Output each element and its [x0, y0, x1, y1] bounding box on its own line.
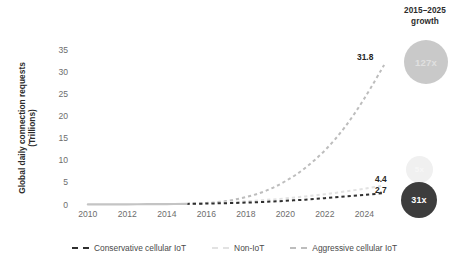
- x-tick-2012: 2012: [110, 209, 144, 219]
- series-line-conservative-cellular-iot: [187, 193, 385, 204]
- growth-badge-conservative-value: 31x: [411, 195, 427, 205]
- y-axis-title-line2: (Trillions): [27, 62, 37, 194]
- x-tick-2016: 2016: [189, 209, 223, 219]
- y-axis-title-line1: Global daily connection requests: [17, 62, 27, 194]
- series-line-historical: [88, 204, 187, 205]
- y-tick-15: 15: [44, 133, 68, 143]
- growth-badge-aggressive: 127x: [404, 40, 448, 84]
- legend-label: Aggressive cellular IoT: [312, 243, 397, 253]
- y-tick-10: 10: [44, 155, 68, 165]
- y-tick-5: 5: [44, 177, 68, 187]
- legend-label: Non-IoT: [234, 243, 264, 253]
- legend-item-conservative-cellular-iot[interactable]: Conservative cellular IoT: [72, 243, 186, 253]
- x-tick-2014: 2014: [150, 209, 184, 219]
- legend-item-aggressive-cellular-iot[interactable]: Aggressive cellular IoT: [290, 243, 397, 253]
- x-tick-2024: 2024: [347, 209, 381, 219]
- x-tick-2022: 2022: [308, 209, 342, 219]
- legend-item-non-iot[interactable]: Non-IoT: [212, 243, 264, 253]
- y-tick-0: 0: [44, 200, 68, 210]
- y-tick-25: 25: [44, 89, 68, 99]
- y-axis-title: Global daily connection requests (Trilli…: [17, 62, 37, 194]
- end-label-non-iot: 4.4: [375, 174, 387, 184]
- y-tick-30: 30: [44, 67, 68, 77]
- legend-dash-icon: [212, 247, 229, 249]
- legend-dash-icon: [72, 247, 89, 249]
- chart-legend: Conservative cellular IoTNon-IoTAggressi…: [0, 243, 469, 253]
- growth-header-line1: 2015–2025: [404, 6, 446, 15]
- y-axis-title-wrap: Global daily connection requests (Trilli…: [14, 48, 40, 208]
- growth-badge-non-iot-value: 5x: [415, 165, 424, 174]
- y-tick-35: 35: [44, 45, 68, 55]
- end-label-conservative: 2.7: [375, 185, 387, 195]
- legend-label: Conservative cellular IoT: [94, 243, 186, 253]
- series-line-aggressive-cellular-iot: [187, 65, 385, 204]
- growth-header: 2015–2025 growth: [383, 6, 467, 27]
- growth-header-line2: growth: [411, 17, 439, 26]
- plot-area: [76, 42, 396, 205]
- x-tick-2020: 2020: [268, 209, 302, 219]
- growth-badge-conservative: 31x: [401, 182, 437, 218]
- chart-root: 2015–2025 growth 127x 5x 31x Global dail…: [0, 0, 469, 272]
- chart-svg: [76, 42, 396, 205]
- end-label-aggressive: 31.8: [357, 52, 373, 62]
- x-tick-2010: 2010: [71, 209, 105, 219]
- legend-dash-icon: [290, 247, 307, 249]
- x-tick-2018: 2018: [229, 209, 263, 219]
- y-tick-20: 20: [44, 111, 68, 121]
- growth-badge-aggressive-value: 127x: [415, 57, 437, 68]
- growth-badge-non-iot: 5x: [406, 156, 433, 183]
